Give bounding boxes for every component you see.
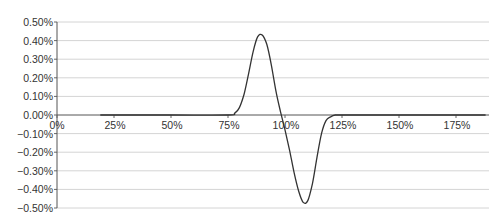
x-tick-label: 0% — [49, 119, 64, 131]
x-axis: 0%25%50%75%100%125%150%175% — [49, 115, 489, 131]
y-axis: 0.50%0.40%0.30%0.20%0.10%0.00%−0.10%−0.2… — [17, 16, 57, 214]
y-tick-label: 0.50% — [23, 16, 53, 28]
x-tick-label: 25% — [104, 119, 125, 131]
y-tick-label: −0.30% — [17, 165, 53, 177]
x-tick-label: 75% — [218, 119, 239, 131]
x-tick-label: 125% — [330, 119, 357, 131]
x-tick-label: 175% — [444, 119, 471, 131]
y-tick-label: −0.50% — [17, 202, 53, 214]
y-tick-label: −0.40% — [17, 183, 53, 195]
x-tick-label: 100% — [273, 119, 300, 131]
line-chart: 0.50%0.40%0.30%0.20%0.10%0.00%−0.10%−0.2… — [0, 0, 503, 223]
x-tick-label: 50% — [161, 119, 182, 131]
x-tick-label: 150% — [387, 119, 414, 131]
y-tick-label: 0.20% — [23, 72, 53, 84]
y-tick-label: 0.10% — [23, 90, 53, 102]
y-tick-label: 0.30% — [23, 53, 53, 65]
y-tick-label: −0.20% — [17, 146, 53, 158]
y-tick-label: −0.10% — [17, 128, 53, 140]
y-tick-label: 0.40% — [23, 35, 53, 47]
